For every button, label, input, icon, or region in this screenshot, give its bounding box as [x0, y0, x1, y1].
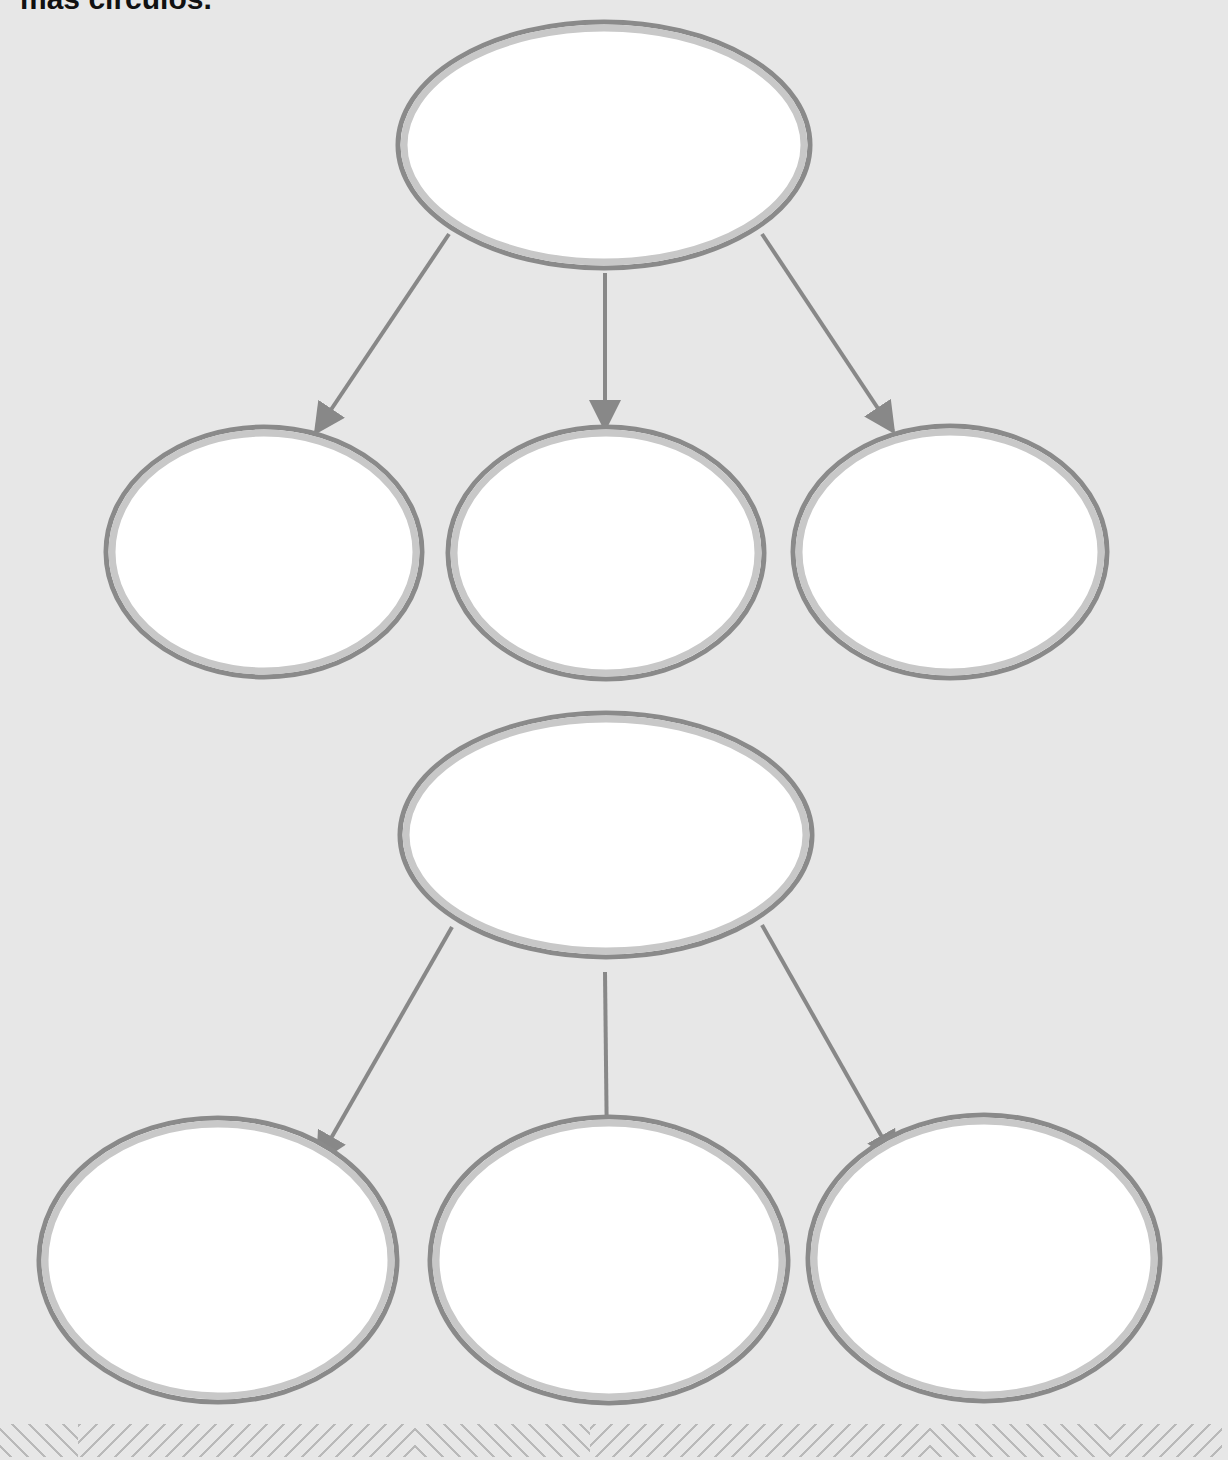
child-node-2-1[interactable]	[39, 1118, 397, 1402]
decorative-hatch-band	[0, 1424, 1222, 1457]
hatch-segment	[0, 1424, 78, 1457]
child-node-1-1[interactable]	[106, 427, 422, 677]
page-margin	[0, 1460, 1228, 1473]
connector-arrow-icon	[318, 927, 452, 1161]
hierarchy-diagram	[0, 0, 1228, 1460]
hatch-segment	[590, 1424, 930, 1457]
child-node-2-2[interactable]	[430, 1117, 788, 1403]
connector-arrow-icon	[762, 234, 893, 431]
child-node-1-2[interactable]	[448, 427, 764, 679]
worksheet-page: más círculos.	[0, 0, 1228, 1460]
connector-arrow-icon	[316, 234, 449, 432]
connector-arrow-icon	[762, 925, 895, 1160]
hatch-segment	[78, 1424, 415, 1457]
nodes-layer	[39, 22, 1160, 1403]
child-node-2-3[interactable]	[808, 1115, 1160, 1401]
child-node-1-3[interactable]	[793, 426, 1107, 678]
parent-node-1[interactable]	[398, 22, 810, 268]
hatch-segment	[415, 1424, 590, 1457]
hatch-segment	[1110, 1424, 1222, 1457]
hatch-segment	[930, 1424, 1110, 1457]
arrows-layer	[316, 234, 895, 1161]
parent-node-2[interactable]	[400, 713, 812, 957]
